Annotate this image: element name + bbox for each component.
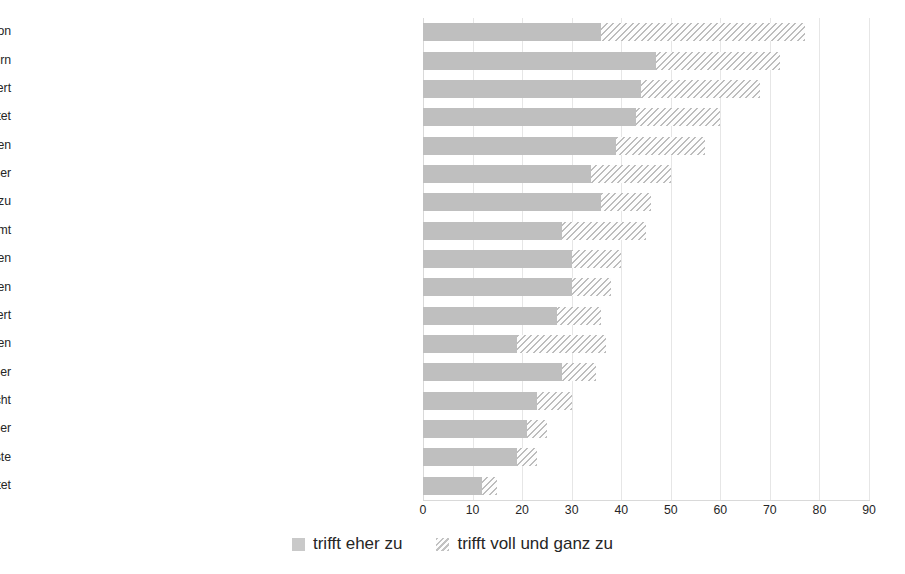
stacked-bar[interactable] xyxy=(423,222,646,240)
category-label: Abläufe werden stärker strukturiert, reg… xyxy=(0,309,11,323)
stacked-bar[interactable] xyxy=(423,165,671,183)
stacked-bar[interactable] xyxy=(423,477,497,495)
stacked-bar[interactable] xyxy=(423,420,547,438)
bar-segment-1[interactable] xyxy=(423,335,517,353)
bar-row: Kontrollpotenziale der Anwendungen schür… xyxy=(0,443,905,471)
category-label: Selbstbestimmtes Arbeiten und Leben wird… xyxy=(0,394,11,408)
x-axis-line xyxy=(423,500,870,501)
x-tick-label: 10 xyxy=(466,503,480,517)
bar-segment-2[interactable] xyxy=(562,222,646,240)
bar-segment-1[interactable] xyxy=(423,193,601,211)
category-label: Überflutung mit Informationen xyxy=(0,337,11,351)
bar-segment-2[interactable] xyxy=(557,307,602,325)
stacked-bar[interactable] xyxy=(423,52,780,70)
stacked-bar[interactable] xyxy=(423,80,760,98)
stacked-bar[interactable] xyxy=(423,307,601,325)
bar-segment-1[interactable] xyxy=(423,250,572,268)
bar-segment-2[interactable] xyxy=(572,250,622,268)
legend-item[interactable]: trifft eher zu xyxy=(292,534,402,554)
x-tick-label: 50 xyxy=(664,503,678,517)
category-label: Gestaltungsspielräume der Arbeit werden … xyxy=(0,167,11,181)
category-label: Traditionelle Grenze von Privat- und Arb… xyxy=(0,224,11,238)
bar-rows: Besserer Zugang zu Wissen und Informatio… xyxy=(0,18,905,500)
bar-row: Die Arbeit wird belastender xyxy=(0,415,905,443)
category-label: Arbeitsalltag wird erleichtert xyxy=(0,82,11,96)
category-label: Die Arbeit wird belastender xyxy=(0,422,11,436)
x-tick-label: 20 xyxy=(515,503,529,517)
category-label: Besserer Zugang zu Kooperationspartnern xyxy=(0,54,11,68)
x-tick-label: 70 xyxy=(763,503,777,517)
bar-segment-1[interactable] xyxy=(423,108,636,126)
stacked-bar[interactable] xyxy=(423,392,572,410)
bar-segment-2[interactable] xyxy=(562,363,597,381)
bar-row: Arbeitsalltag wird erleichtert xyxy=(0,75,905,103)
bar-segment-1[interactable] xyxy=(423,222,562,240)
x-tick-label: 90 xyxy=(862,503,876,517)
bar-row: Anforderungen an die Selbstorganisation … xyxy=(0,131,905,159)
plot-area: Besserer Zugang zu Wissen und Informatio… xyxy=(0,0,905,574)
bar-segment-2[interactable] xyxy=(656,52,780,70)
bar-segment-1[interactable] xyxy=(423,420,527,438)
bar-segment-1[interactable] xyxy=(423,165,591,183)
category-label: Anforderungen an die Selbstorganisation … xyxy=(0,139,11,153)
stacked-bar[interactable] xyxy=(423,108,720,126)
bar-segment-1[interactable] xyxy=(423,23,601,41)
category-label: Die Arbeit wird verdichtet xyxy=(0,110,11,124)
bar-segment-2[interactable] xyxy=(616,137,705,155)
stacked-bar[interactable] xyxy=(423,278,611,296)
x-tick-label: 60 xyxy=(713,503,727,517)
bar-segment-2[interactable] xyxy=(636,108,720,126)
bar-segment-2[interactable] xyxy=(517,448,537,466)
category-label: Die Kultur der Zusammenarbeit verändert … xyxy=(0,281,11,295)
stacked-bar[interactable] xyxy=(423,23,805,41)
bar-row: Traditionelle Grenze von Privat- und Arb… xyxy=(0,216,905,244)
bar-segment-2[interactable] xyxy=(537,392,572,410)
bar-segment-1[interactable] xyxy=(423,477,482,495)
bar-row: Besserer Zugang zu Kooperationspartnern xyxy=(0,46,905,74)
x-tick-label: 40 xyxy=(614,503,628,517)
x-tick-label: 80 xyxy=(813,503,827,517)
legend-label: trifft voll und ganz zu xyxy=(457,534,613,554)
bar-row: Gestaltungsspielräume der Arbeit werden … xyxy=(0,160,905,188)
bar-segment-1[interactable] xyxy=(423,392,537,410)
bar-segment-2[interactable] xyxy=(641,80,760,98)
legend-item[interactable]: trifft voll und ganz zu xyxy=(436,534,613,554)
chart-legend: trifft eher zutrifft voll und ganz zu xyxy=(0,534,905,554)
category-label: Mitsprachemöglichkeiten der Beschäftigte… xyxy=(0,479,11,493)
bar-segment-1[interactable] xyxy=(423,363,562,381)
bar-segment-1[interactable] xyxy=(423,448,517,466)
chart-container: Besserer Zugang zu Wissen und Informatio… xyxy=(0,0,905,574)
bar-segment-2[interactable] xyxy=(572,278,612,296)
stacked-bar[interactable] xyxy=(423,448,537,466)
bar-row: Die Arbeit wird verdichtet xyxy=(0,103,905,131)
x-tick-label: 30 xyxy=(565,503,579,517)
stacked-bar[interactable] xyxy=(423,363,596,381)
category-label: Kontrollpotenziale der Anwendungen schür… xyxy=(0,451,11,465)
bar-segment-1[interactable] xyxy=(423,80,641,98)
bar-row: Überflutung mit Informationen xyxy=(0,330,905,358)
bar-segment-1[interactable] xyxy=(423,137,616,155)
bar-segment-1[interactable] xyxy=(423,307,557,325)
bar-row: Selbstbestimmtes Arbeiten und Leben wird… xyxy=(0,386,905,414)
stacked-bar[interactable] xyxy=(423,193,651,211)
bar-segment-2[interactable] xyxy=(517,335,606,353)
bar-segment-2[interactable] xyxy=(482,477,497,495)
bar-segment-2[interactable] xyxy=(527,420,547,438)
stacked-bar[interactable] xyxy=(423,250,621,268)
bar-row: Umstellungs- und Lernanforderungen nehme… xyxy=(0,188,905,216)
bar-segment-2[interactable] xyxy=(601,193,651,211)
legend-label: trifft eher zu xyxy=(313,534,402,554)
bar-segment-2[interactable] xyxy=(591,165,670,183)
bar-segment-1[interactable] xyxy=(423,278,572,296)
bar-segment-2[interactable] xyxy=(601,23,804,41)
legend-swatch-hatch-icon xyxy=(436,538,449,551)
x-axis-tick-labels: 0102030405060708090 xyxy=(423,503,869,523)
stacked-bar[interactable] xyxy=(423,335,606,353)
bar-row: Die Kultur der Zusammenarbeit verändert … xyxy=(0,273,905,301)
bar-row: Besserer Zugang zu Wissen und Informatio… xyxy=(0,18,905,46)
category-label: Umstellungs- und Lernanforderungen nehme… xyxy=(0,195,11,209)
category-label: Anforderungen an die Mobilität sinken xyxy=(0,252,11,266)
stacked-bar[interactable] xyxy=(423,137,705,155)
bar-segment-1[interactable] xyxy=(423,52,656,70)
category-label: Unternehmensstrukturen werden offener un… xyxy=(0,366,11,380)
